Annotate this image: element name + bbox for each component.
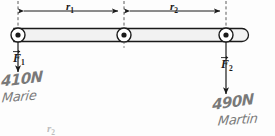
right-pivot [219,28,233,42]
force-label-f1: F1 [13,52,25,67]
force-label-f2: F2 [221,58,233,73]
dimension-label-r1: r1 [66,1,74,15]
dimension-label-r2: r2 [170,1,178,15]
handwritten-right-name: Martin [217,112,258,128]
vector-overbar-arrow-icon [13,49,21,54]
bottom-partial-label-r2: r2 [47,122,55,136]
handwritten-left-name: Marie [1,88,37,104]
vector-overbar-arrow-icon [221,55,229,60]
middle-pivot [117,28,131,42]
left-pivot [11,28,25,42]
witness-lines [18,1,226,30]
diagram-canvas: r1 r2 F1 F2 410N Marie 490N Martin r2 [0,0,275,136]
